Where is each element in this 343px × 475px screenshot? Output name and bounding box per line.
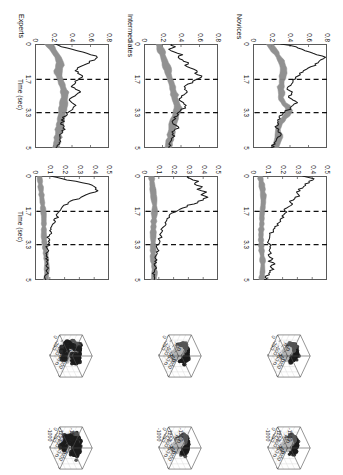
y-tick-label: 0.2 <box>62 160 69 174</box>
line-plot-right-column-velocity-intermediates <box>144 176 218 280</box>
y-tick-label: 0 <box>33 28 40 42</box>
line-plot-left-column-velocity-experts <box>35 44 109 148</box>
y-tick-label: 0.5 <box>107 160 114 174</box>
row-label-intermediates: Intermediates <box>126 14 134 57</box>
x-tick-label: 1.7 <box>26 203 33 219</box>
axis3d-z-tick: -1250 <box>276 428 282 441</box>
plot-canvas <box>253 176 327 280</box>
y-tick-label: 0.4 <box>310 160 317 174</box>
y-tick-label: 0 <box>251 28 258 42</box>
plot-canvas <box>144 176 218 280</box>
x-tick-label: 3.3 <box>26 105 33 121</box>
axis3d-z-tick: -1000 <box>265 428 271 441</box>
y-tick-label: 0.4 <box>201 160 208 174</box>
x-tick-label: 5 <box>244 140 251 156</box>
row-label-novices: Novices <box>235 14 243 39</box>
y-tick-label: 0.6 <box>88 28 95 42</box>
axis3d-z-tick: -1500 <box>70 428 76 441</box>
axis3d-z-tick: -1000 <box>156 428 162 441</box>
y-tick-label: 0.5 <box>216 160 223 174</box>
x-tick-label: 0 <box>244 168 251 184</box>
line-plot-left-column-velocity-novices <box>253 44 327 148</box>
y-tick-label: 0.3 <box>295 160 302 174</box>
figure-canvas: 00.20.40.60.801.73.3500.20.40.60.801.73.… <box>0 0 343 475</box>
axis3d-z-tick: -1500 <box>179 428 185 441</box>
time-axis-label: Time (sec) <box>17 79 24 110</box>
x-tick-label: 0 <box>26 168 33 184</box>
x-tick-label: 3.3 <box>135 105 142 121</box>
x-tick-label: 5 <box>135 272 142 288</box>
axis3d-z-tick: -1000 <box>47 428 53 441</box>
plot-canvas <box>144 44 218 148</box>
y-tick-label: 0.4 <box>70 28 77 42</box>
x-tick-label: 3.3 <box>244 237 251 253</box>
x-tick-label: 1.7 <box>135 203 142 219</box>
x-tick-label: 0 <box>244 36 251 52</box>
y-tick-label: 0.8 <box>216 28 223 42</box>
y-tick-label: 0.5 <box>325 160 332 174</box>
y-tick-label: 0 <box>251 160 258 174</box>
y-tick-label: 0.4 <box>179 28 186 42</box>
y-tick-label: 0.3 <box>77 160 84 174</box>
x-tick-label: 3.3 <box>26 237 33 253</box>
x-tick-label: 1.7 <box>26 71 33 87</box>
x-tick-label: 3.3 <box>135 237 142 253</box>
y-tick-label: 0.1 <box>265 160 272 174</box>
plot-canvas <box>35 176 109 280</box>
y-tick-label: 0.6 <box>197 28 204 42</box>
line-plot-right-column-velocity-novices <box>253 176 327 280</box>
y-tick-label: 0.2 <box>171 160 178 174</box>
y-tick-label: 0.2 <box>269 28 276 42</box>
x-tick-label: 5 <box>244 272 251 288</box>
y-tick-label: 0.8 <box>325 28 332 42</box>
y-tick-label: 0.4 <box>288 28 295 42</box>
plot-canvas <box>35 44 109 148</box>
x-tick-label: 0 <box>26 36 33 52</box>
axis3d-z-tick: -1250 <box>58 428 64 441</box>
x-tick-label: 0 <box>135 36 142 52</box>
y-tick-label: 0 <box>142 28 149 42</box>
y-tick-label: 0.8 <box>107 28 114 42</box>
x-tick-label: 5 <box>26 140 33 156</box>
y-tick-label: 0.2 <box>280 160 287 174</box>
axis3d-z-tick: -1250 <box>167 428 173 441</box>
line-plot-right-column-velocity-experts <box>35 176 109 280</box>
x-tick-label: 1.7 <box>244 203 251 219</box>
figure-root: 00.20.40.60.801.73.3500.20.40.60.801.73.… <box>0 0 343 475</box>
y-tick-label: 0.4 <box>92 160 99 174</box>
axis3d-z-tick: -1500 <box>288 428 294 441</box>
y-tick-label: 0 <box>142 160 149 174</box>
plot-canvas <box>253 44 327 148</box>
row-label-experts: Experts <box>17 14 25 38</box>
time-axis-label: Time (sec) <box>17 211 24 242</box>
y-tick-label: 0 <box>33 160 40 174</box>
x-tick-label: 5 <box>26 272 33 288</box>
x-tick-label: 1.7 <box>244 71 251 87</box>
x-tick-label: 5 <box>135 140 142 156</box>
y-tick-label: 0.1 <box>47 160 54 174</box>
y-tick-label: 0.2 <box>160 28 167 42</box>
y-tick-label: 0.1 <box>156 160 163 174</box>
y-tick-label: 0.3 <box>186 160 193 174</box>
y-tick-label: 0.2 <box>51 28 58 42</box>
x-tick-label: 3.3 <box>244 105 251 121</box>
line-plot-left-column-velocity-intermediates <box>144 44 218 148</box>
x-tick-label: 0 <box>135 168 142 184</box>
x-tick-label: 1.7 <box>135 71 142 87</box>
y-tick-label: 0.6 <box>306 28 313 42</box>
